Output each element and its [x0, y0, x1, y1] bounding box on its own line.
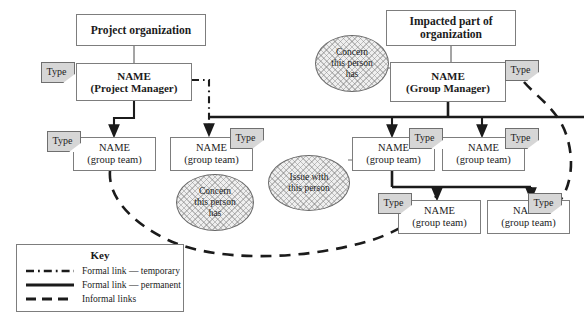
node-team-6-role: (group team) [501, 217, 556, 229]
node-group-manager-role: (Group Manager) [406, 82, 490, 94]
type-note-team-1: Type [47, 131, 81, 152]
node-group-manager: NAME (Group Manager) [390, 62, 506, 102]
type-note-team-3: Type [409, 128, 443, 149]
type-note-label: Type [505, 60, 539, 81]
bubble-issue-line2: this person [288, 183, 329, 194]
node-team-4-name: NAME [468, 142, 499, 154]
link-pm-to-team1 [114, 101, 134, 131]
link-second-bus [392, 171, 531, 187]
type-note-team-4: Type [505, 128, 539, 149]
link-pm-to-team2-temporary [192, 80, 209, 130]
type-note-label: Type [505, 128, 539, 149]
node-group-manager-name: NAME [431, 70, 465, 82]
type-note-label: Type [230, 128, 264, 149]
bubble-concern-bottom-line1: Concern [194, 186, 235, 197]
node-team-2-name: NAME [196, 142, 227, 154]
key-label-formal-temporary: Formal link — temporary [82, 266, 180, 276]
bubble-concern-bottom-line3: has [194, 208, 235, 219]
dashed-line-icon [24, 294, 76, 304]
node-team-3-role: (group team) [366, 154, 421, 166]
key-row-formal-permanent: Formal link — permanent [17, 278, 183, 292]
bubble-concern-bottom-line2: this person [194, 197, 235, 208]
bubble-concern-top: Concern this person has [315, 35, 389, 92]
bubble-issue-with-person: Issue with this person [268, 155, 350, 211]
type-note-label: Type [409, 128, 443, 149]
bubble-issue-line1: Issue with [288, 172, 329, 183]
header-impacted-part-line2: organization [420, 28, 482, 41]
dash-dot-line-icon [24, 266, 76, 276]
type-note-team-2: Type [230, 128, 264, 149]
type-note-project-manager: Type [41, 62, 75, 83]
type-note-team-5: Type [378, 193, 412, 214]
bubble-concern-top-line1: Concern [331, 47, 372, 58]
header-impacted-part-line1: Impacted part of [409, 15, 492, 28]
key-row-informal: Informal links [17, 292, 183, 306]
type-note-group-manager: Type [505, 60, 539, 81]
key-title: Key [17, 249, 183, 261]
bubble-concern-bottom: Concern this person has [176, 174, 254, 231]
bubble-concern-top-line2: this person [331, 58, 372, 69]
key-legend: Key Formal link — temporary Formal link … [16, 244, 184, 312]
node-project-manager-role: (Project Manager) [91, 82, 178, 94]
key-label-formal-permanent: Formal link — permanent [82, 280, 181, 290]
node-team-5-role: (group team) [412, 217, 467, 229]
node-team-4-role: (group team) [456, 154, 511, 166]
node-team-5-name: NAME [424, 205, 455, 217]
node-team-1-role: (group team) [87, 154, 142, 166]
type-note-team-6: Type [528, 193, 562, 214]
header-project-organization: Project organization [76, 14, 206, 46]
link-gm-bus [209, 102, 584, 117]
node-project-manager: NAME (Project Manager) [76, 63, 192, 101]
node-team-1: NAME (group team) [73, 137, 156, 171]
node-team-2-role: (group team) [184, 154, 239, 166]
type-note-label: Type [41, 62, 75, 83]
type-note-label: Type [528, 193, 562, 214]
node-team-1-name: NAME [99, 142, 130, 154]
node-team-3-name: NAME [378, 142, 409, 154]
header-impacted-part: Impacted part of organization [386, 10, 516, 46]
header-project-organization-label: Project organization [91, 24, 191, 37]
bubble-concern-top-line3: has [331, 69, 372, 80]
type-note-label: Type [378, 193, 412, 214]
type-note-label: Type [47, 131, 81, 152]
solid-line-icon [24, 280, 76, 290]
diagram-canvas: Project organization Impacted part of or… [0, 0, 587, 327]
key-label-informal: Informal links [82, 294, 136, 304]
key-row-formal-temporary: Formal link — temporary [17, 264, 183, 278]
node-project-manager-name: NAME [117, 70, 151, 82]
